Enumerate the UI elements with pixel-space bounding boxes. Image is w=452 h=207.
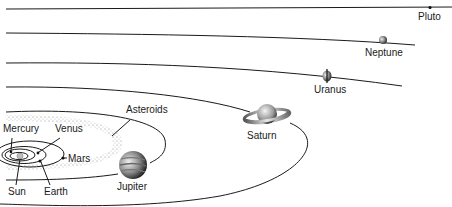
label-mercury: Mercury [3,124,39,134]
label-jupiter: Jupiter [117,182,147,192]
label-uranus: Uranus [314,85,346,95]
label-mars: Mars [68,154,90,164]
label-sun: Sun [8,187,26,197]
pluto-icon [428,6,431,9]
uranus-orbit [6,63,402,86]
pluto-orbit [6,7,452,9]
uranus-icon [323,69,332,83]
label-neptune: Neptune [365,48,403,58]
label-earth: Earth [44,187,68,197]
mercury-leader [11,138,12,151]
neptune-icon [379,36,387,44]
jupiter-icon [119,151,147,179]
asteroids-leader [112,120,130,136]
venus-icon [37,152,40,155]
label-pluto: Pluto [418,12,441,22]
label-venus: Venus [55,124,83,134]
orbits-canvas [0,0,452,207]
label-saturn: Saturn [247,131,276,141]
mercury-icon [10,151,13,154]
label-asteroids: Asteroids [126,105,168,115]
venus-leader [39,138,60,152]
sun-icon [17,153,23,159]
saturn-icon [243,104,290,125]
solar-system-diagram: Mercury Venus Mars Asteroids Sun Earth J… [0,0,452,207]
neptune-orbit [6,33,415,45]
